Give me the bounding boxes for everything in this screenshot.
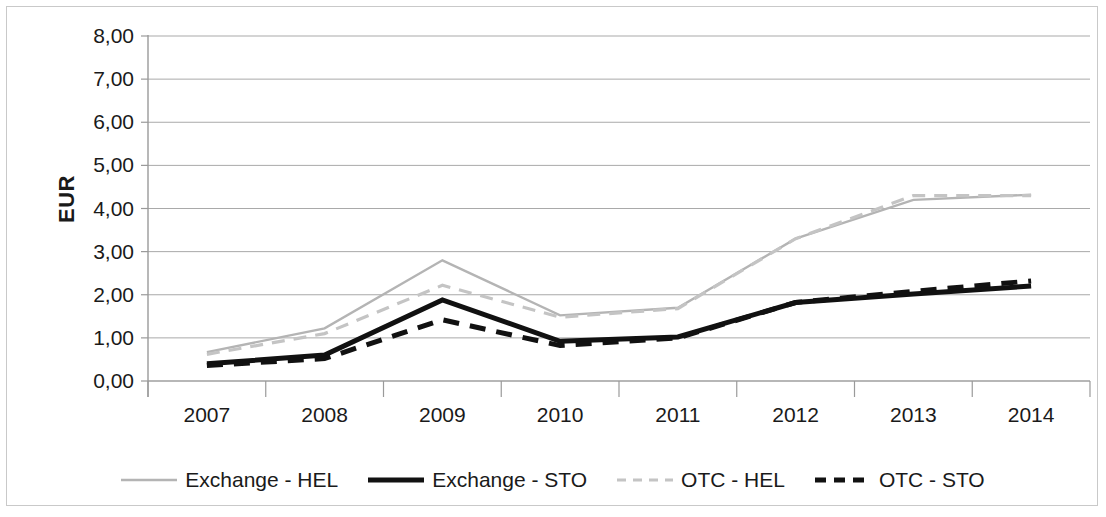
legend-swatch-icon: [815, 474, 871, 486]
line-chart: EUR 0,001,002,003,004,005,006,007,008,00…: [0, 0, 1106, 517]
legend-label: Exchange - HEL: [185, 468, 338, 492]
legend-item[interactable]: OTC - HEL: [617, 468, 785, 492]
legend-item[interactable]: OTC - STO: [815, 468, 985, 492]
legend-label: OTC - STO: [879, 468, 985, 492]
legend-swatch-icon: [121, 474, 177, 486]
plot-area: [0, 0, 1106, 517]
legend-label: OTC - HEL: [681, 468, 785, 492]
series-line-2: [207, 196, 1031, 355]
legend-item[interactable]: Exchange - STO: [368, 468, 587, 492]
series-line-0: [207, 195, 1031, 352]
legend-swatch-icon: [368, 474, 424, 486]
legend-label: Exchange - STO: [432, 468, 587, 492]
legend-item[interactable]: Exchange - HEL: [121, 468, 338, 492]
chart-legend: Exchange - HELExchange - STOOTC - HELOTC…: [0, 468, 1106, 492]
legend-swatch-icon: [617, 474, 673, 486]
